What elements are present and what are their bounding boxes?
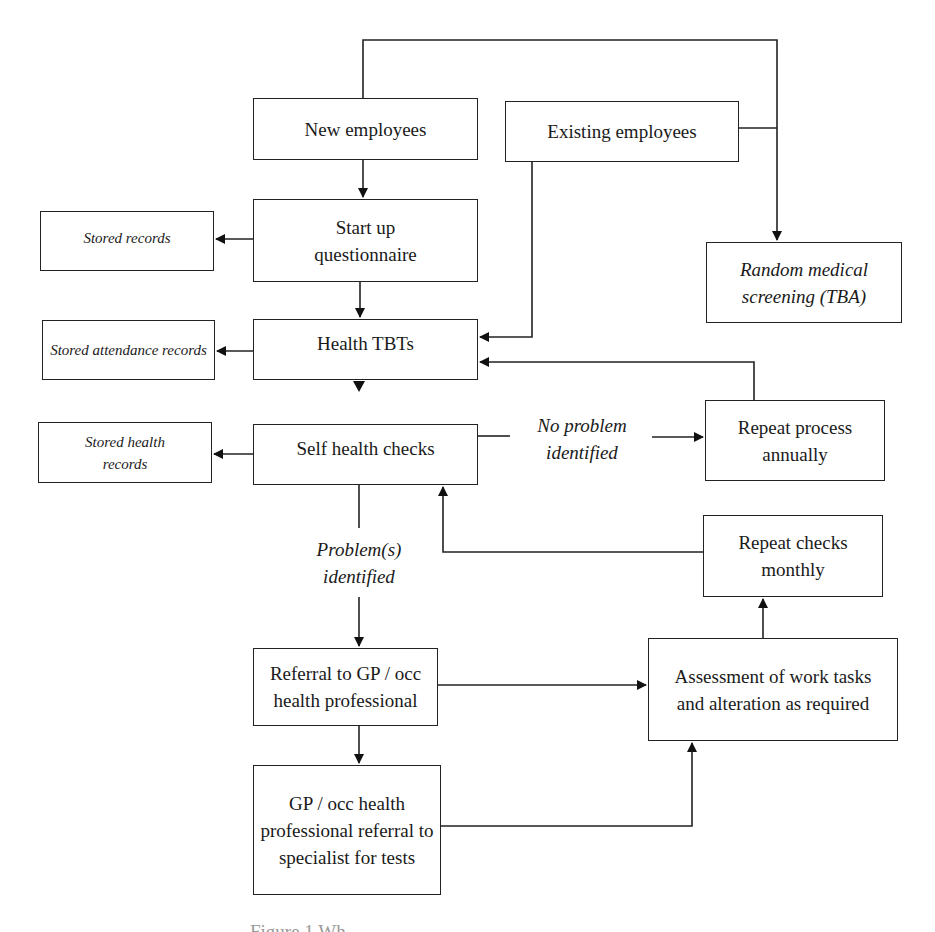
node-new-employees: New employees: [253, 98, 478, 160]
node-label: Repeat checks monthly: [720, 529, 866, 583]
edge-label-text: No problem identified: [537, 415, 627, 463]
edge-label-no-problem: No problem identified: [512, 412, 652, 466]
node-label: Stored records: [83, 227, 170, 249]
edge-label-problems: Problem(s) identified: [298, 536, 420, 590]
node-label: Repeat process annually: [712, 414, 878, 468]
node-label: Existing employees: [547, 118, 696, 145]
node-assessment-work-tasks: Assessment of work tasks and alteration …: [648, 638, 898, 741]
node-referral-gp: Referral to GP / occ health professional: [253, 648, 438, 726]
node-specialist-referral: GP / occ health professional referral to…: [253, 765, 441, 895]
node-label: Assessment of work tasks and alteration …: [671, 663, 875, 717]
node-startup-questionnaire: Start up questionnaire: [253, 199, 478, 282]
node-repeat-process-annually: Repeat process annually: [705, 400, 885, 481]
node-repeat-checks-monthly: Repeat checks monthly: [703, 515, 883, 597]
node-health-tbts: Health TBTs: [253, 319, 478, 380]
node-label: New employees: [305, 116, 427, 143]
node-label: Start up questionnaire: [294, 214, 437, 268]
node-label: Self health checks: [296, 435, 434, 462]
node-stored-attendance-records: Stored attendance records: [42, 320, 215, 380]
node-label: Stored attendance records: [50, 339, 207, 361]
node-label: Random medical screening (TBA): [721, 256, 887, 310]
arrowhead-icon: [353, 381, 365, 392]
node-stored-records: Stored records: [40, 211, 214, 271]
flowchart-canvas: New employees Existing employees Start u…: [0, 0, 935, 932]
node-existing-employees: Existing employees: [505, 101, 739, 162]
node-label: Health TBTs: [317, 330, 414, 357]
node-random-medical-screening: Random medical screening (TBA): [706, 242, 902, 323]
node-label: Stored health records: [69, 431, 181, 475]
node-self-health-checks: Self health checks: [253, 424, 478, 485]
edge-label-text: Problem(s) identified: [317, 539, 402, 587]
figure-caption: Figure 1 Wh: [250, 914, 346, 932]
node-label: GP / occ health professional referral to…: [260, 790, 434, 871]
node-stored-health-records: Stored health records: [38, 422, 212, 483]
node-label: Referral to GP / occ health professional: [260, 660, 431, 714]
